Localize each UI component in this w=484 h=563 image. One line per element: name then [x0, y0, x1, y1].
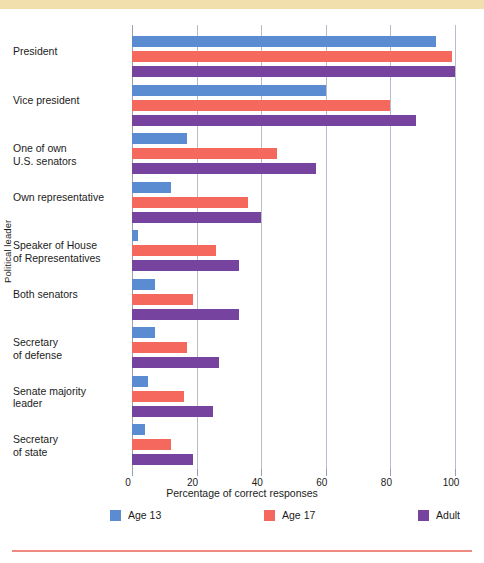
bar — [132, 376, 148, 387]
bar — [132, 245, 216, 256]
tick-40 — [261, 469, 262, 476]
legend-swatch-icon — [264, 510, 275, 521]
x-axis-title: Percentage of correct responses — [0, 487, 484, 499]
bar — [132, 391, 184, 402]
bar — [132, 133, 187, 144]
bar — [132, 230, 138, 241]
category-label: Secretary of defense — [13, 336, 123, 361]
tick-60 — [326, 469, 327, 476]
bar — [132, 182, 171, 193]
bar — [132, 51, 452, 62]
legend-item[interactable]: Adult — [418, 509, 460, 521]
bar — [132, 309, 239, 320]
bar — [132, 212, 261, 223]
legend-swatch-icon — [418, 510, 429, 521]
category-label: Own representative — [13, 191, 123, 204]
bar — [132, 260, 239, 271]
category-label: Both senators — [13, 288, 123, 301]
bar — [132, 357, 219, 368]
legend-label: Age 13 — [128, 509, 161, 521]
bar-group: Speaker of House of Representatives — [132, 230, 455, 271]
legend-label: Age 17 — [282, 509, 315, 521]
tick-100 — [455, 469, 456, 476]
bar — [132, 85, 326, 96]
bar — [132, 197, 248, 208]
bar — [132, 66, 455, 77]
bar-group: Vice president — [132, 85, 455, 126]
legend-item[interactable]: Age 17 — [264, 509, 315, 521]
category-label: One of own U.S. senators — [13, 142, 123, 167]
legend-label: Adult — [436, 509, 460, 521]
bar — [132, 454, 193, 465]
bar — [132, 148, 277, 159]
bar — [132, 406, 213, 417]
legend-item[interactable]: Age 13 — [110, 509, 161, 521]
bar — [132, 327, 155, 338]
bottom-rule — [12, 550, 472, 552]
bar — [132, 100, 390, 111]
bar — [132, 36, 436, 47]
category-label: Secretary of state — [13, 433, 123, 458]
category-label: Speaker of House of Representatives — [13, 239, 123, 264]
bar-group: President — [132, 36, 455, 77]
plot-area: 020406080100 PresidentVice presidentOne … — [132, 25, 455, 469]
bar — [132, 439, 171, 450]
legend-swatch-icon — [110, 510, 121, 521]
category-label: Senate majority leader — [13, 385, 123, 410]
bar-group: Both senators — [132, 279, 455, 320]
tick-80 — [390, 469, 391, 476]
category-label: President — [13, 45, 123, 58]
top-color-strip — [0, 0, 484, 9]
chart-legend: Age 13Age 17Adult — [110, 509, 460, 521]
bar-group: One of own U.S. senators — [132, 133, 455, 174]
bar — [132, 294, 193, 305]
bar-group: Secretary of state — [132, 424, 455, 465]
bar — [132, 163, 316, 174]
tick-0 — [132, 469, 133, 476]
tick-20 — [197, 469, 198, 476]
gridline-100 — [455, 25, 456, 469]
bar-group: Senate majority leader — [132, 376, 455, 417]
bar — [132, 279, 155, 290]
bar — [132, 424, 145, 435]
bar-chart-figure: Political leader 020406080100 PresidentV… — [0, 9, 484, 550]
category-label: Vice president — [13, 94, 123, 107]
bar — [132, 342, 187, 353]
bar-group: Secretary of defense — [132, 327, 455, 368]
bar — [132, 115, 416, 126]
bar-group: Own representative — [132, 182, 455, 223]
